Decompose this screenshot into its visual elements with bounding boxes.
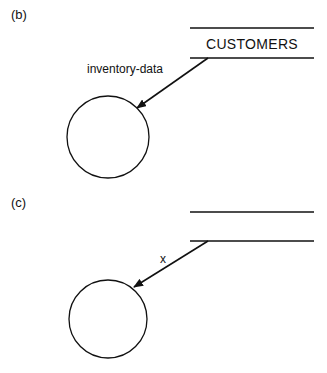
data-flow-arrow [134, 241, 208, 287]
panel-c [69, 212, 314, 358]
data-store-name: CUSTOMERS [190, 37, 314, 51]
process-circle [67, 96, 149, 178]
data-flow-label: inventory-data [87, 63, 163, 75]
panel-label-c: (c) [11, 196, 26, 209]
process-circle [69, 280, 147, 358]
diagram-canvas [0, 0, 327, 373]
data-flow-label: x [160, 253, 166, 265]
panel-label-b: (b) [11, 8, 27, 21]
